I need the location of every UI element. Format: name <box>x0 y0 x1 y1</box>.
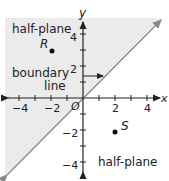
y-tick-label: −4 <box>62 159 78 172</box>
x-tick-label: 4 <box>144 102 151 115</box>
point-s <box>113 130 118 135</box>
boundary-label-line1: boundary <box>12 66 69 80</box>
x-tick-label: 2 <box>112 102 119 115</box>
coordinate-plane: y x O −4 −2 2 4 4 2 −2 −4 half-plane hal… <box>0 0 169 181</box>
point-r-label: R <box>40 37 48 51</box>
point-r <box>50 49 55 54</box>
upper-half-plane-label: half-plane <box>12 22 71 36</box>
boundary-label-line2: line <box>44 79 66 93</box>
y-tick-label: 2 <box>70 63 77 76</box>
y-axis-label: y <box>78 6 87 20</box>
lower-half-plane-label: half-plane <box>98 155 157 169</box>
point-s-label: S <box>121 119 129 133</box>
y-tick-label: −2 <box>62 127 78 140</box>
x-tick-label: −4 <box>12 102 28 115</box>
origin-label: O <box>71 100 80 113</box>
x-tick-label: −2 <box>44 102 60 115</box>
x-axis-label: x <box>160 92 168 105</box>
